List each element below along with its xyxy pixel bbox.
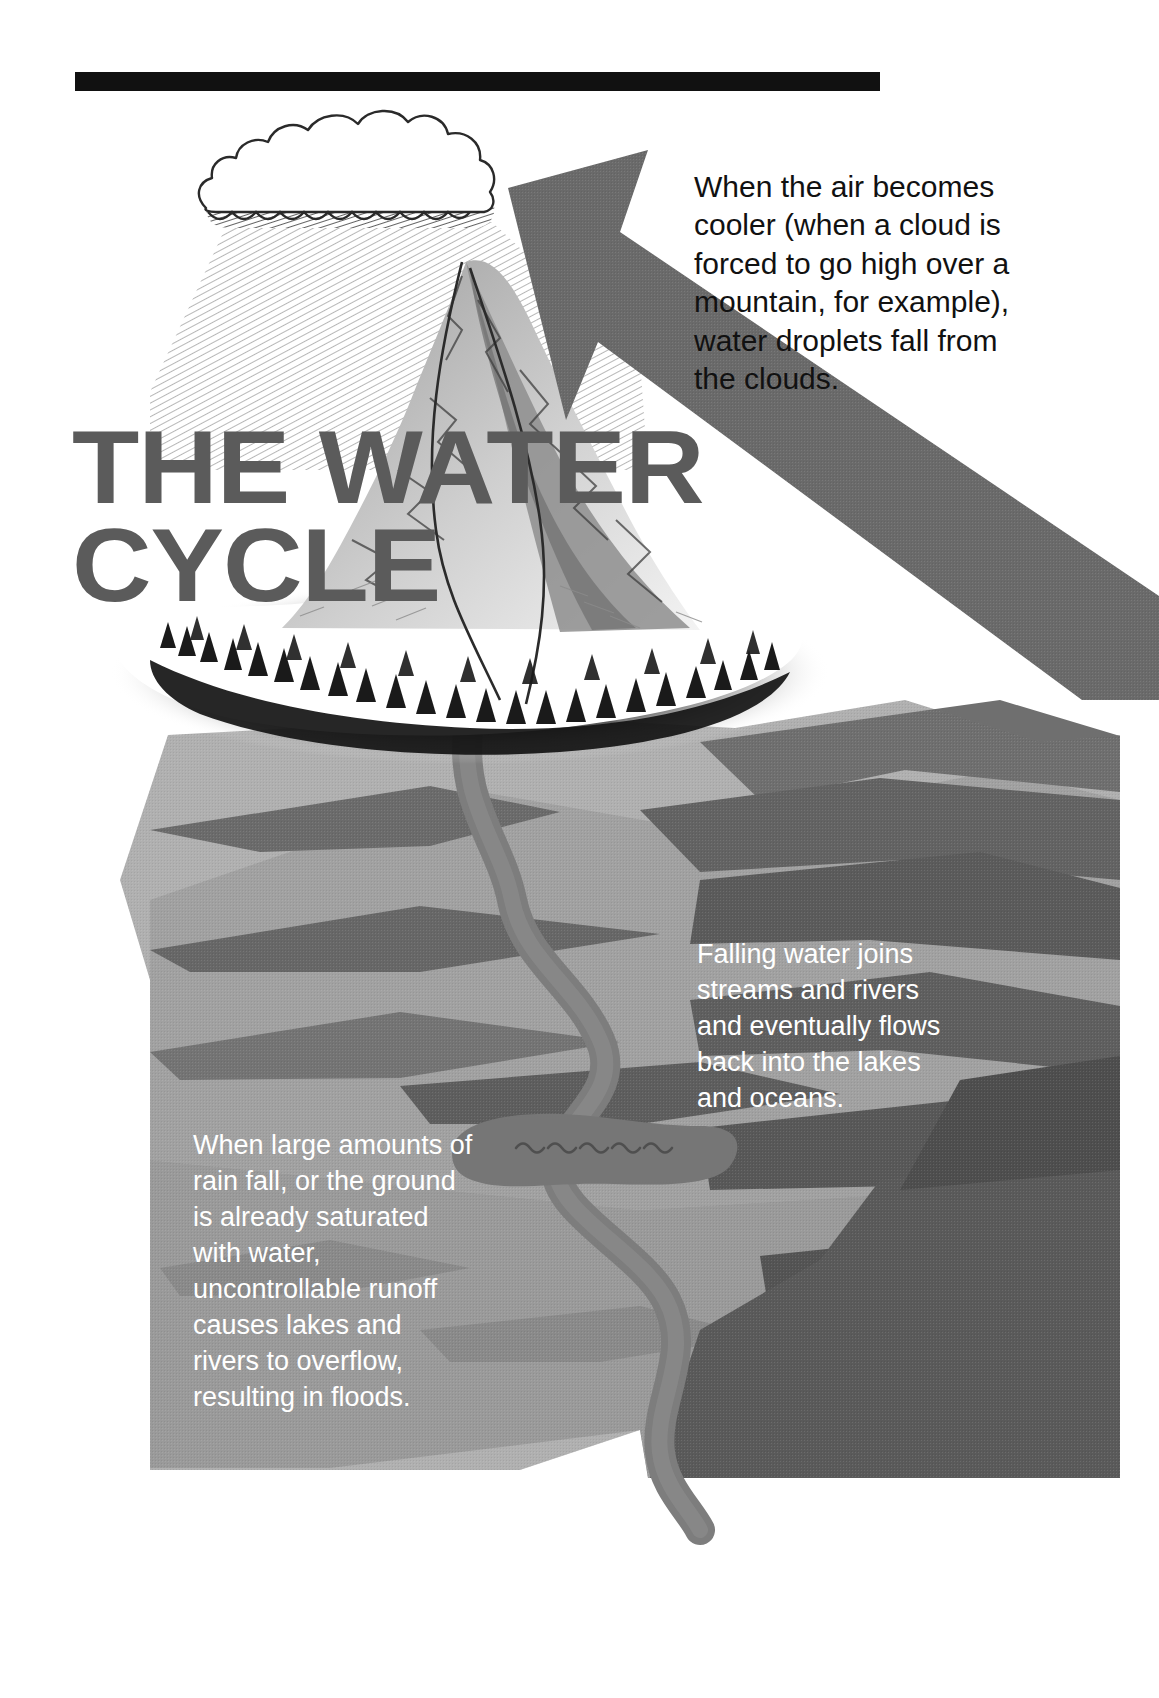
poster-canvas: THE WATER CYCLE When the air becomes coo… <box>0 0 1159 1698</box>
page-title: THE WATER CYCLE <box>72 418 729 616</box>
page-title-line-2: CYCLE <box>72 516 729 615</box>
top-divider-rule <box>75 72 880 91</box>
page-title-line-1: THE WATER <box>72 418 729 517</box>
rain-cloud <box>199 111 494 228</box>
runoff-callout: Falling water joins streams and rivers a… <box>697 937 957 1117</box>
condensation-callout: When the air becomes cooler (when a clou… <box>694 168 1014 398</box>
flood-callout: When large amounts of rain fall, or the … <box>193 1127 473 1415</box>
